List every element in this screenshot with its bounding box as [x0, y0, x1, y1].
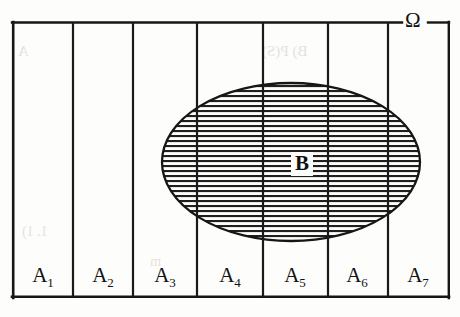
partition-label-a7: A7	[407, 265, 429, 289]
partition-label-base: A	[32, 263, 47, 287]
partition-label-base: A	[92, 263, 107, 287]
partition-label-sub: 1	[47, 275, 54, 290]
partition-label-base: A	[219, 263, 234, 287]
partition-label-sub: 3	[169, 275, 176, 290]
partition-label-a6: A6	[346, 265, 368, 289]
partition-label-sub: 5	[299, 275, 306, 290]
partition-label-a5: A5	[284, 265, 306, 289]
partition-label-a2: A2	[92, 265, 114, 289]
partition-label-base: A	[346, 263, 361, 287]
figure-canvas: B) P(S) A 1. 1) m	[0, 0, 460, 317]
partition-label-a4: A4	[219, 265, 241, 289]
set-b-label: B	[291, 152, 313, 176]
partition-label-sub: 7	[422, 275, 429, 290]
partition-label-base: A	[407, 263, 422, 287]
partition-label-base: A	[284, 263, 299, 287]
universe-label: Ω	[405, 10, 421, 31]
partition-label-sub: 2	[107, 275, 114, 290]
partition-label-a3: A3	[154, 265, 176, 289]
partition-label-sub: 6	[361, 275, 368, 290]
partition-label-a1: A1	[32, 265, 54, 289]
partition-label-base: A	[154, 263, 169, 287]
partition-label-sub: 4	[234, 275, 241, 290]
